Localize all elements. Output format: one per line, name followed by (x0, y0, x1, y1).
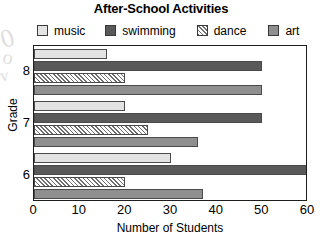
x-tick-20: 20 (109, 203, 139, 217)
bar-grade-8-dance (34, 73, 125, 83)
legend-label-dance: dance (214, 25, 247, 37)
legend-item-dance[interactable]: dance (197, 22, 247, 39)
y-tick-6: 6 (8, 168, 30, 181)
legend-item-art[interactable]: art (268, 22, 299, 39)
x-tick-60: 60 (292, 203, 322, 217)
x-tick-50: 50 (246, 203, 276, 217)
legend-item-music[interactable]: music (37, 22, 85, 39)
legend-swatch-swimming-icon (105, 25, 116, 36)
bar-grade-6-art (34, 189, 203, 199)
legend-swatch-dance-icon (197, 25, 208, 36)
legend-label-art: art (285, 25, 299, 37)
x-tick-10: 10 (64, 203, 94, 217)
x-tick-0: 0 (18, 203, 48, 217)
chart-legend: musicswimmingdanceart (31, 22, 316, 39)
chart-title: After-School Activities (0, 1, 322, 16)
x-axis-title: Number of Students (33, 221, 307, 235)
bar-grade-7-art (34, 137, 198, 147)
bar-grade-6-dance (34, 177, 125, 187)
y-axis-title: Grade (6, 85, 20, 145)
legend-item-swimming[interactable]: swimming (105, 22, 175, 39)
bar-grade-8-art (34, 85, 262, 95)
legend-swatch-music-icon (37, 25, 48, 36)
bar-grade-8-swimming (34, 61, 262, 71)
bar-grade-6-music (34, 153, 171, 163)
x-tick-30: 30 (155, 203, 185, 217)
plot-area (33, 45, 307, 201)
x-tick-40: 40 (201, 203, 231, 217)
bars-layer (34, 46, 306, 200)
bar-grade-7-swimming (34, 113, 262, 123)
bar-grade-7-music (34, 101, 125, 111)
y-tick-8: 8 (8, 64, 30, 77)
x-axis-tick-labels: 0102030405060 (0, 203, 322, 219)
bar-grade-7-dance (34, 125, 148, 135)
bar-grade-8-music (34, 49, 107, 59)
legend-label-swimming: swimming (122, 25, 175, 37)
bar-grade-6-swimming (34, 165, 307, 175)
legend-swatch-art-icon (268, 25, 279, 36)
legend-label-music: music (54, 25, 85, 37)
